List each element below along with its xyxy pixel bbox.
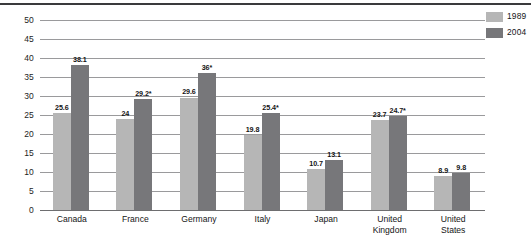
bar-united-kingdom-1989: [371, 120, 389, 210]
y-tick-label-25: 25: [10, 111, 34, 120]
y-tick-label-30: 30: [10, 92, 34, 101]
legend-label-2004: 2004: [507, 27, 526, 38]
y-tick-label-35: 35: [10, 73, 34, 82]
legend-swatch-2004: [486, 28, 503, 38]
bar-france-1989: [116, 119, 134, 210]
gridline-0: [40, 210, 485, 211]
bar-value-label-united-states-2004: 9.8: [441, 164, 481, 171]
bar-italy-1989: [244, 135, 262, 210]
bar-united-states-2004: [452, 173, 470, 210]
category-label-line: States: [416, 225, 490, 236]
x-axis-category-labels: CanadaFranceGermanyItalyJapanUnitedKingd…: [40, 214, 485, 247]
bar-group-france: 2429.2*: [116, 20, 152, 210]
y-tick-label-15: 15: [10, 149, 34, 158]
bar-japan-1989: [307, 169, 325, 210]
bar-united-states-1989: [434, 176, 452, 210]
bar-italy-2004: [262, 113, 280, 210]
bar-value-label-japan-2004: 13.1: [314, 151, 354, 158]
bar-group-germany: 29.636*: [180, 20, 216, 210]
bars-layer: 25.638.12429.2*29.636*19.825.4*10.713.12…: [40, 20, 485, 210]
bar-value-label-italy-2004: 25.4*: [251, 104, 291, 111]
bar-japan-2004: [325, 160, 343, 210]
y-tick-label-10: 10: [10, 168, 34, 177]
bar-group-canada: 25.638.1: [53, 20, 89, 210]
y-tick-label-20: 20: [10, 130, 34, 139]
y-tick-label-5: 5: [10, 187, 34, 196]
category-label-united-states: UnitedStates: [416, 214, 490, 236]
top-rule-divider: [0, 3, 531, 5]
category-label-line: United: [416, 214, 490, 225]
bar-france-2004: [134, 99, 152, 210]
legend-item-2004[interactable]: 2004: [486, 26, 531, 40]
bar-value-label-germany-2004: 36*: [187, 64, 227, 71]
legend-item-1989[interactable]: 1989: [486, 10, 531, 24]
bar-group-united-kingdom: 23.724.7*: [371, 20, 407, 210]
y-tick-label-50: 50: [10, 16, 34, 25]
chart-legend: 19892004: [486, 10, 531, 42]
bar-group-italy: 19.825.4*: [244, 20, 280, 210]
y-tick-label-45: 45: [10, 35, 34, 44]
bar-chart: 05101520253035404550 25.638.12429.2*29.6…: [0, 0, 531, 247]
bar-canada-1989: [53, 113, 71, 210]
legend-label-1989: 1989: [507, 11, 526, 22]
bar-group-japan: 10.713.1: [307, 20, 343, 210]
plot-area: 25.638.12429.2*29.636*19.825.4*10.713.12…: [40, 20, 485, 210]
bar-group-united-states: 8.99.8: [434, 20, 470, 210]
bar-value-label-united-kingdom-2004: 24.7*: [378, 107, 418, 114]
y-tick-label-40: 40: [10, 54, 34, 63]
y-tick-label-0: 0: [10, 206, 34, 215]
bar-germany-1989: [180, 98, 198, 210]
bar-value-label-france-2004: 29.2*: [123, 90, 163, 97]
bar-germany-2004: [198, 73, 216, 210]
legend-swatch-1989: [486, 12, 503, 22]
y-axis-tick-labels: 05101520253035404550: [8, 20, 34, 210]
bar-united-kingdom-2004: [389, 116, 407, 210]
bar-value-label-canada-2004: 38.1: [60, 56, 100, 63]
bar-canada-2004: [71, 65, 89, 210]
